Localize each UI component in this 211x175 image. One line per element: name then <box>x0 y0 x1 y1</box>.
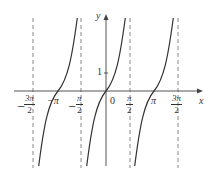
x-tick-label-neg-pi-2: π 2 <box>76 94 83 115</box>
branch-left <box>39 18 78 166</box>
origin-label: 0 <box>110 96 115 106</box>
x-tick-label-3pi-2: 3π 2 <box>171 94 182 115</box>
x-axis-arrow <box>197 89 203 94</box>
x-tick-label-pi-2: π 2 <box>126 94 133 115</box>
x-tick-label-neg-3pi-2: 3π 2 <box>24 94 35 115</box>
branch-right <box>135 18 174 166</box>
tangent-chart <box>0 0 211 175</box>
x-axis-label: x <box>199 96 203 106</box>
y-tick-label-1: 1 <box>97 67 102 77</box>
x-tick-label-neg-pi: −π <box>47 96 59 106</box>
y-axis-label: y <box>96 11 100 21</box>
y-axis-arrow <box>104 14 109 20</box>
x-tick-label-pi: π <box>151 96 156 106</box>
